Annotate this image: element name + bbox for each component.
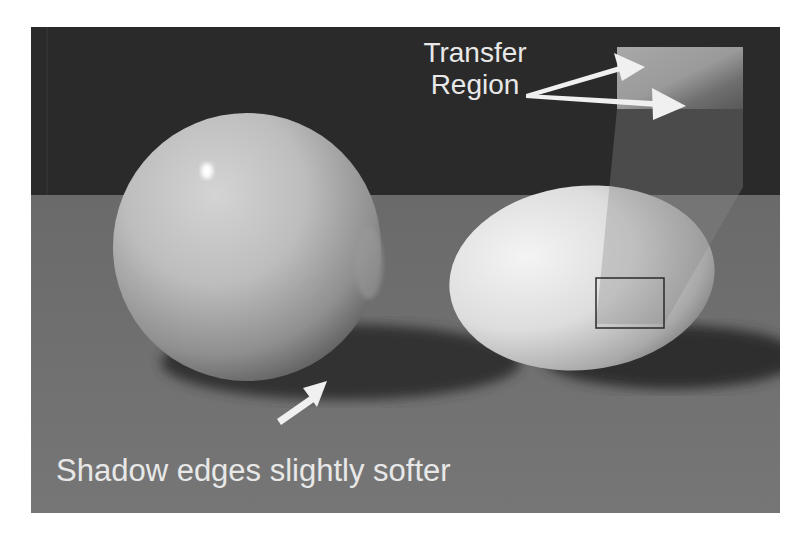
transfer-region-label: Transfer Region	[423, 37, 527, 101]
transfer-region-label-line2: Region	[423, 69, 527, 101]
sphere-specular-highlight	[201, 163, 213, 179]
glossy-sphere	[113, 113, 381, 381]
shadow-caption: Shadow edges slightly softer	[56, 455, 451, 486]
rendered-scene-figure: Transfer Region Shadow edges slightly so…	[31, 27, 780, 513]
transfer-region-inset	[617, 47, 743, 109]
scene-illustration	[31, 27, 780, 513]
transfer-region-label-line1: Transfer	[423, 37, 527, 69]
